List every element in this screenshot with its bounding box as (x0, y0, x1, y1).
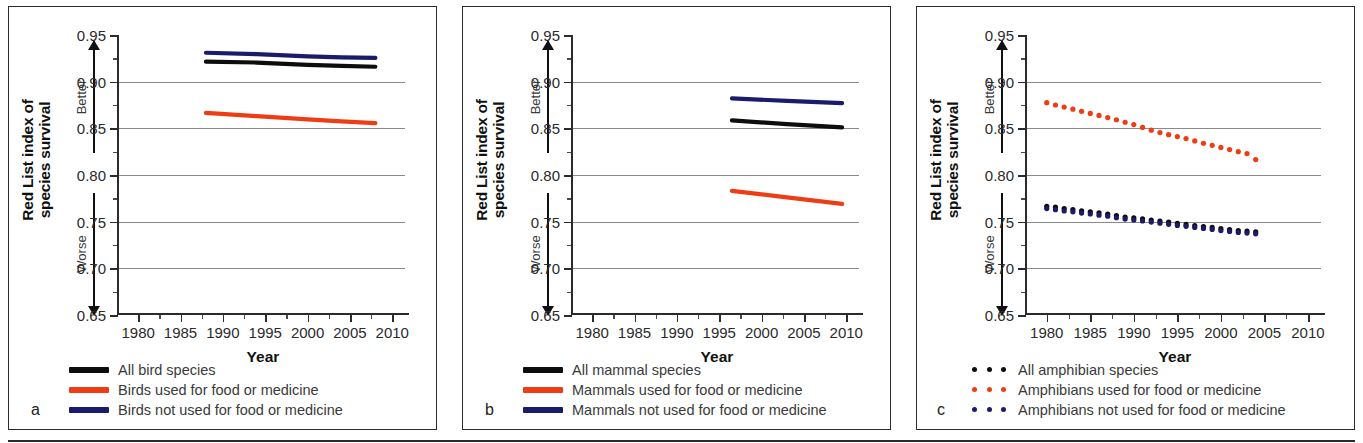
x-tick-label: 2000 (1204, 324, 1237, 341)
legend-label: Mammals used for food or medicine (572, 382, 803, 398)
data-point (1201, 226, 1206, 231)
data-point (1096, 213, 1101, 218)
x-tick-label: 2000 (745, 324, 778, 341)
x-tick (308, 315, 310, 322)
panel-c: Red List index of species survival Bette… (916, 6, 1355, 430)
legend-label: Birds used for food or medicine (118, 382, 319, 398)
x-tick-label: 1995 (1161, 324, 1194, 341)
legend-line-swatch (523, 367, 563, 373)
x-axis-area-b: Year 1980198519901995200020052010 (571, 315, 863, 359)
series-layer-a (117, 35, 405, 315)
legend-label: Amphibians used for food or medicine (1018, 382, 1261, 398)
x-tick-label: 2010 (830, 324, 863, 341)
y-tick-label: 0.80 (985, 167, 1014, 184)
x-tick-label: 1980 (575, 324, 608, 341)
legend-item[interactable]: Amphibians used for food or medicine (969, 380, 1286, 399)
legend-dots-swatch (969, 406, 1009, 414)
data-point (1062, 208, 1067, 213)
y-tick-label: 0.85 (531, 120, 560, 137)
x-tick-minor (1069, 315, 1070, 319)
data-point (1140, 125, 1145, 130)
x-tick-minor (783, 315, 784, 319)
x-tick-minor (329, 315, 330, 319)
data-point (1227, 147, 1232, 152)
series-line (206, 53, 375, 58)
x-tick (138, 315, 140, 322)
worse-arrow-line (547, 193, 549, 315)
y-tick-label: 0.90 (531, 73, 560, 90)
series-line (732, 98, 842, 103)
legend-item[interactable]: All amphibian species (969, 360, 1286, 379)
data-point (1114, 215, 1119, 220)
legend-item[interactable]: Mammals used for food or medicine (523, 380, 827, 399)
y-tick-label: 0.70 (77, 260, 106, 277)
data-point (1070, 107, 1075, 112)
legend-line-swatch (69, 387, 109, 393)
x-tick-minor (613, 315, 614, 319)
legend-line-swatch (69, 407, 109, 413)
y-tick-label: 0.75 (985, 213, 1014, 230)
y-tick-label: 0.80 (531, 167, 560, 184)
x-tick-label: 2005 (787, 324, 820, 341)
y-tick-label: 0.70 (531, 260, 560, 277)
data-point (1183, 224, 1188, 229)
data-point (1088, 211, 1093, 216)
y-tick-label: 0.80 (77, 167, 106, 184)
x-tick-label: 1990 (1117, 324, 1150, 341)
y-tick-label: 0.70 (985, 260, 1014, 277)
red-list-index-figure: Red List index of species survival Bette… (0, 0, 1363, 443)
worse-arrow-annotation: Worse (967, 193, 1009, 315)
plot-area-c: 0.650.700.750.800.850.900.95 Year 198019… (1025, 35, 1321, 315)
x-tick-minor (656, 315, 657, 319)
x-tick (1047, 315, 1049, 322)
y-tick-label: 0.95 (531, 27, 560, 44)
y-tick-label: 0.65 (77, 307, 106, 324)
legend-label: Birds not used for food or medicine (118, 402, 343, 418)
series-line (732, 120, 842, 127)
x-tick-label: 1990 (660, 324, 693, 341)
plot-area-b: 0.650.700.750.800.850.900.95 Year 198019… (571, 35, 859, 315)
data-point (1123, 216, 1128, 221)
data-point (1053, 102, 1058, 107)
y-axis-title: Red List index of species survival (467, 21, 513, 299)
data-point (1079, 109, 1084, 114)
x-tick (181, 315, 183, 322)
data-point (1227, 229, 1232, 234)
x-tick-minor (825, 315, 826, 319)
legend-item[interactable]: All mammal species (523, 360, 827, 379)
x-tick-minor (1156, 315, 1157, 319)
data-point (1166, 132, 1171, 137)
legend-item[interactable]: Mammals not used for food or medicine (523, 400, 827, 419)
legend-item[interactable]: All bird species (69, 360, 343, 379)
series-line (206, 113, 375, 123)
y-tick-label: 0.95 (77, 27, 106, 44)
legend-item[interactable]: Birds used for food or medicine (69, 380, 343, 399)
x-axis-area-a: Year 1980198519901995200020052010 (117, 315, 409, 359)
x-axis-area-c: Year 1980198519901995200020052010 (1025, 315, 1325, 359)
x-tick-minor (740, 315, 741, 319)
y-axis-title-line1: Red List index of (927, 99, 944, 220)
x-tick-minor (1243, 315, 1244, 319)
x-tick (392, 315, 394, 322)
x-tick-minor (286, 315, 287, 319)
panel-letter-a: a (31, 401, 40, 419)
x-tick-label: 1980 (1030, 324, 1063, 341)
data-point (1105, 115, 1110, 120)
x-tick-label: 2005 (1248, 324, 1281, 341)
series-layer-c (1025, 35, 1321, 315)
legend-dots-swatch (969, 366, 1009, 374)
legend-item[interactable]: Amphibians not used for food or medicine (969, 400, 1286, 419)
x-tick (677, 315, 679, 322)
x-tick-label: 1990 (206, 324, 239, 341)
data-point (1149, 128, 1154, 133)
x-tick (762, 315, 764, 322)
y-axis-title: Red List index of species survival (921, 21, 967, 299)
y-axis-title-line2: species survival (490, 102, 507, 219)
data-point (1201, 141, 1206, 146)
legend-b: All mammal speciesMammals used for food … (523, 360, 827, 419)
x-tick (719, 315, 721, 322)
panel-letter-c: c (937, 401, 945, 419)
x-tick (804, 315, 806, 322)
legend-item[interactable]: Birds not used for food or medicine (69, 400, 343, 419)
x-tick-minor (1199, 315, 1200, 319)
